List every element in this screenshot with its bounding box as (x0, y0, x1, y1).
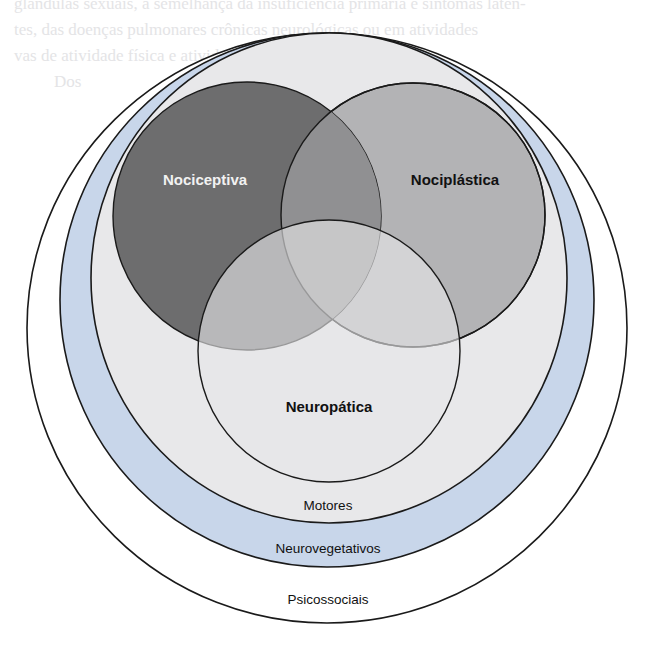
label-motores: Motores (304, 498, 353, 513)
circle-neuropatica (198, 220, 460, 482)
label-neuropatica: Neuropática (286, 398, 373, 415)
label-nociplastica: Nociplástica (411, 171, 500, 188)
label-neurovegetativos: Neurovegetativos (275, 541, 380, 556)
label-psicossociais: Psicossociais (287, 592, 368, 607)
pain-mechanisms-diagram: Nociceptiva Nociplástica Neuropática Mot… (0, 0, 648, 650)
label-nociceptiva: Nociceptiva (163, 171, 248, 188)
